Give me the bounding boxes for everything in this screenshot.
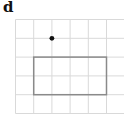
grid-diagram bbox=[0, 0, 124, 120]
grid-lines bbox=[16, 20, 125, 114]
point-marker bbox=[50, 36, 55, 41]
